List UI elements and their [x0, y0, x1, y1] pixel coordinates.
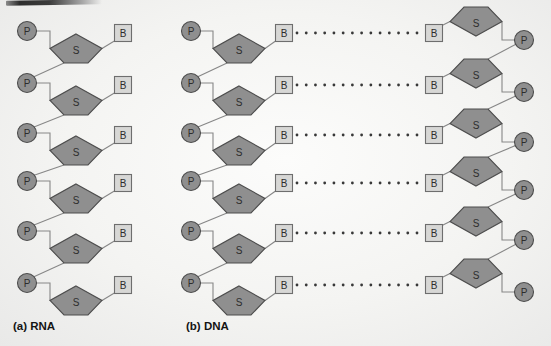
hydrogen-bond-dot	[369, 232, 372, 235]
sugar-letter: S	[236, 195, 243, 206]
hydrogen-bond-dot	[314, 134, 317, 137]
base-letter: B	[281, 130, 288, 141]
dna-right-strand	[426, 7, 534, 302]
hydrogen-bond-row	[296, 84, 419, 87]
hydrogen-bond-dot	[314, 84, 317, 87]
phosphate-letter: P	[521, 185, 528, 196]
hydrogen-bond-dot	[305, 84, 308, 87]
hydrogen-bond-dot	[406, 284, 409, 287]
sugar-letter: S	[236, 297, 243, 308]
hydrogen-bond-dot	[342, 182, 345, 185]
base-letter: B	[281, 178, 288, 189]
hydrogen-bond-dot	[360, 134, 363, 137]
sugar-base-bond-line	[102, 190, 116, 199]
phosphate-letter: P	[24, 278, 31, 289]
hydrogen-bond-dot	[379, 134, 382, 137]
hydrogen-bond-dot	[388, 232, 391, 235]
hydrogen-bond-dot	[369, 84, 372, 87]
hydrogen-bond-dot	[388, 134, 391, 137]
sugar-letter: S	[473, 270, 480, 281]
hydrogen-bond-dot	[416, 232, 419, 235]
hydrogen-bond-dot	[296, 134, 299, 137]
sugar-letter: S	[73, 97, 80, 108]
hydrogen-bond-dot	[406, 232, 409, 235]
hydrogen-bond-dot	[397, 32, 400, 35]
caption-rna: (a) RNA	[13, 320, 55, 332]
hydrogen-bond-dot	[406, 134, 409, 137]
hydrogen-bond-dot	[406, 32, 409, 35]
phosphate-letter: P	[188, 176, 195, 187]
hydrogen-bond-dot	[342, 134, 345, 137]
base-letter: B	[120, 80, 127, 91]
hydrogen-bond-dot	[406, 84, 409, 87]
caption-dna: (b) DNA	[186, 320, 229, 332]
phosphate-letter: P	[188, 278, 195, 289]
hydrogen-bond-dot	[296, 84, 299, 87]
sugar-letter: S	[73, 297, 80, 308]
phosphate-letter: P	[24, 26, 31, 37]
hydrogen-bond-dot	[351, 232, 354, 235]
base-letter: B	[281, 228, 288, 239]
hydrogen-bond-dot	[333, 32, 336, 35]
hydrogen-bond-dot	[342, 84, 345, 87]
hydrogen-bond-dot	[360, 32, 363, 35]
hydrogen-bond-dot	[397, 84, 400, 87]
nodes-layer	[18, 7, 534, 315]
hydrogen-bond-row	[296, 232, 419, 235]
rna-strand	[18, 22, 132, 316]
hydrogen-bond-dot	[333, 182, 336, 185]
phosphate-letter: P	[24, 226, 31, 237]
hydrogen-bond-dot	[296, 32, 299, 35]
sugar-letter: S	[236, 45, 243, 56]
hydrogen-bond-dot	[397, 134, 400, 137]
hydrogen-bond-dot	[360, 284, 363, 287]
hydrogen-bond-dot	[369, 284, 372, 287]
hydrogen-bond-dot	[397, 232, 400, 235]
base-letter: B	[120, 228, 127, 239]
hydrogen-bond-dot	[305, 284, 308, 287]
sugar-letter: S	[473, 120, 480, 131]
hydrogen-bond-dot	[323, 84, 326, 87]
node-letters-layer: PSBPSBPSBPSBPSBPSBPSBPSBPSBPSBPSBPSBPSBP…	[24, 18, 528, 309]
hydrogen-bond-dot	[397, 182, 400, 185]
phosphate-letter: P	[521, 35, 528, 46]
hydrogen-bond-dot	[351, 182, 354, 185]
hydrogen-bond-dot	[351, 284, 354, 287]
phosphate-letter: P	[24, 78, 31, 89]
hydrogen-bond-dot	[416, 134, 419, 137]
sugar-base-bond-line	[102, 292, 116, 301]
phosphate-letter: P	[24, 176, 31, 187]
hydrogen-bond-dot	[305, 32, 308, 35]
textbook-figure-rna-dna: PSBPSBPSBPSBPSBPSBPSBPSBPSBPSBPSBPSBPSBP…	[0, 0, 551, 346]
base-letter: B	[120, 280, 127, 291]
hydrogen-bond-dot	[379, 84, 382, 87]
base-letter: B	[431, 80, 438, 91]
hydrogen-bond-dot	[416, 84, 419, 87]
bond-lines-layer	[27, 22, 524, 302]
sugar-letter: S	[473, 218, 480, 229]
sugar-base-bond-line	[102, 142, 116, 151]
hydrogen-bond-dot	[323, 284, 326, 287]
hydrogen-bond-dot	[379, 232, 382, 235]
hydrogen-bond-row	[296, 284, 419, 287]
base-letter: B	[431, 228, 438, 239]
hydrogen-bond-dot	[333, 84, 336, 87]
hydrogen-bond-dot	[388, 284, 391, 287]
hydrogen-bond-dot	[333, 134, 336, 137]
hydrogen-bond-dot	[369, 182, 372, 185]
base-letter: B	[281, 280, 288, 291]
hydrogen-bond-dot	[379, 32, 382, 35]
dna-left-strand	[182, 22, 293, 316]
sugar-letter: S	[473, 18, 480, 29]
hydrogen-bond-dot	[305, 182, 308, 185]
hydrogen-bond-dot	[323, 32, 326, 35]
hydrogen-bond-dot	[305, 232, 308, 235]
phosphate-letter: P	[521, 137, 528, 148]
hydrogen-bond-dot	[314, 232, 317, 235]
hydrogen-bond-row	[296, 32, 419, 35]
hydrogen-bond-dot	[342, 232, 345, 235]
phosphate-letter: P	[521, 87, 528, 98]
hydrogen-bond-dot	[406, 182, 409, 185]
sugar-letter: S	[73, 245, 80, 256]
base-letter: B	[120, 28, 127, 39]
